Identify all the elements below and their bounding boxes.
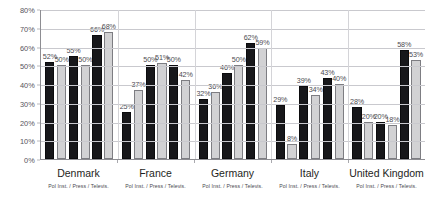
bar[interactable] xyxy=(364,122,373,160)
x-group: GermanyPol Inst. / Press / Televis. xyxy=(194,160,271,206)
x-group: DenmarkPol Inst. / Press / Televis. xyxy=(40,160,117,206)
gridline xyxy=(41,48,425,49)
y-tick-label: 70% xyxy=(20,24,35,33)
bar[interactable] xyxy=(146,65,155,159)
x-group-sublabel: Pol Inst. / Press / Televis. xyxy=(40,183,117,189)
bar[interactable] xyxy=(45,62,54,160)
bar-chart: 0%10%20%30%40%50%60%70%80% 52%50%55%50%6… xyxy=(0,0,442,206)
bar[interactable] xyxy=(234,65,243,159)
bar[interactable] xyxy=(181,80,190,159)
y-axis: 0%10%20%30%40%50%60%70%80% xyxy=(0,0,40,206)
y-tick-label: 50% xyxy=(20,62,35,71)
x-group: ItalyPol Inst. / Press / Televis. xyxy=(271,160,348,206)
group-separator xyxy=(348,10,349,159)
bar[interactable] xyxy=(276,105,285,159)
bar-value-label: 59% xyxy=(255,38,269,47)
bar-value-label: 40% xyxy=(332,74,346,83)
bar[interactable] xyxy=(352,107,361,160)
x-group-sublabel: Pol Inst. / Press / Televis. xyxy=(117,183,194,189)
x-group-name: Germany xyxy=(194,167,271,179)
x-group-name: Italy xyxy=(271,167,348,179)
x-group-name: Denmark xyxy=(40,167,117,179)
group-separator xyxy=(118,10,119,159)
x-tick-mark xyxy=(348,160,349,163)
x-tick-mark xyxy=(271,160,272,163)
bar[interactable] xyxy=(81,65,90,159)
x-group-sublabel: Pol Inst. / Press / Televis. xyxy=(271,183,348,189)
bar[interactable] xyxy=(134,90,143,159)
bar-value-label: 53% xyxy=(409,50,423,59)
y-tick-label: 40% xyxy=(20,81,35,90)
bar[interactable] xyxy=(311,95,320,159)
x-tick-mark xyxy=(117,160,118,163)
bar[interactable] xyxy=(411,60,420,159)
bar[interactable] xyxy=(122,112,131,159)
gridline xyxy=(41,10,425,11)
bar[interactable] xyxy=(376,122,385,160)
x-group-name: United Kingdom xyxy=(348,167,425,179)
bar[interactable] xyxy=(211,92,220,160)
x-group-name: France xyxy=(117,167,194,179)
y-tick-label: 10% xyxy=(20,137,35,146)
x-group-sublabel: Pol Inst. / Press / Televis. xyxy=(348,183,425,189)
x-group-sublabel: Pol Inst. / Press / Televis. xyxy=(194,183,271,189)
x-axis: DenmarkPol Inst. / Press / Televis.Franc… xyxy=(40,160,425,206)
bar[interactable] xyxy=(69,56,78,159)
bar[interactable] xyxy=(199,99,208,159)
gridline xyxy=(41,85,425,86)
bar[interactable] xyxy=(157,63,166,159)
bar-value-label: 42% xyxy=(179,70,193,79)
bar[interactable] xyxy=(169,65,178,159)
y-tick-label: 80% xyxy=(20,6,35,15)
gridline xyxy=(41,141,425,142)
y-tick-label: 20% xyxy=(20,118,35,127)
bar[interactable] xyxy=(104,32,113,160)
gridline xyxy=(41,29,425,30)
x-tick-mark xyxy=(194,160,195,163)
group-separator xyxy=(195,10,196,159)
y-tick-label: 0% xyxy=(24,156,35,165)
x-group: FrancePol Inst. / Press / Televis. xyxy=(117,160,194,206)
plot-area: 52%50%55%50%66%68%25%37%50%51%50%42%32%3… xyxy=(40,10,425,160)
x-group: United KingdomPol Inst. / Press / Televi… xyxy=(348,160,425,206)
group-separator xyxy=(271,10,272,159)
bar[interactable] xyxy=(335,84,344,159)
gridline xyxy=(41,66,425,67)
y-tick-label: 60% xyxy=(20,43,35,52)
bar[interactable] xyxy=(323,78,332,159)
gridline xyxy=(41,104,425,105)
y-tick-label: 30% xyxy=(20,99,35,108)
bar[interactable] xyxy=(287,144,296,159)
gridline xyxy=(41,123,425,124)
bar[interactable] xyxy=(57,65,66,159)
